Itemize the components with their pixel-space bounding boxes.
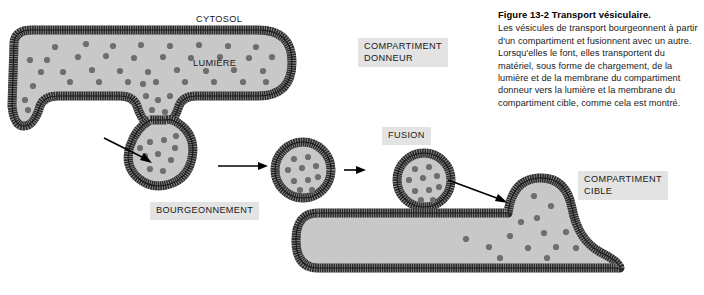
label-target-compartment: COMPARTIMENT CIBLE xyxy=(578,171,668,200)
target-compartment xyxy=(296,178,620,268)
figure-caption: Figure 13-2 Transport vésiculaire. Les v… xyxy=(498,9,698,109)
label-budding: BOURGEONNEMENT xyxy=(150,202,259,220)
budding-vesicle xyxy=(128,120,193,186)
label-lumiere: LUMIÈRE xyxy=(193,58,236,70)
label-donor-compartment: COMPARTIMENT DONNEUR xyxy=(358,38,448,67)
arrow-to-target xyxy=(448,180,508,203)
arrow-fusion-approach xyxy=(344,166,366,174)
caption-body: Les vésicules de transport bourgeonnent … xyxy=(498,22,698,109)
donor-compartment xyxy=(12,30,292,128)
fusing-vesicle xyxy=(397,153,451,207)
caption-title: Figure 13-2 Transport vésiculaire. xyxy=(498,9,698,21)
label-fusion: FUSION xyxy=(382,127,431,145)
target-membrane xyxy=(296,178,620,268)
arrow-release xyxy=(218,162,268,170)
free-vesicle xyxy=(275,142,331,198)
label-cytosol: CYTOSOL xyxy=(196,14,242,26)
figure-root: CYTOSOL LUMIÈRE COMPARTIMENT DONNEUR BOU… xyxy=(0,0,704,295)
